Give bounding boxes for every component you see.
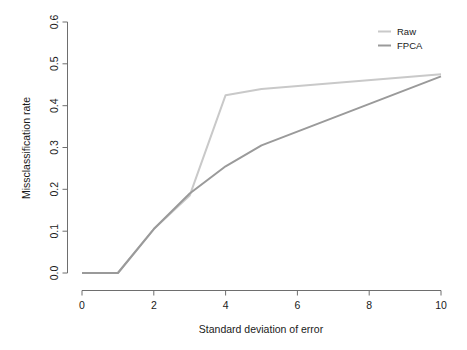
- chart-figure: 0.0 0.1 0.2 0.3 0.4 0.5 0.6 Missclassifi…: [0, 0, 467, 350]
- y-axis-title: Missclassification rate: [20, 97, 32, 199]
- x-tick-label-4: 8: [366, 299, 372, 311]
- y-tick-label-0: 0.0: [48, 266, 60, 281]
- line-chart-canvas: 0.0 0.1 0.2 0.3 0.4 0.5 0.6 Missclassifi…: [0, 0, 467, 350]
- legend-label-raw: Raw: [397, 26, 416, 37]
- y-tick-label-6: 0.6: [48, 15, 60, 30]
- chart-background: [0, 0, 467, 350]
- y-tick-label-5: 0.5: [48, 56, 60, 71]
- x-axis-title: Standard deviation of error: [199, 323, 324, 335]
- x-tick-label-0: 0: [79, 299, 85, 311]
- y-tick-label-3: 0.3: [48, 140, 60, 155]
- legend-label-fpca: FPCA: [397, 40, 423, 51]
- y-tick-label-4: 0.4: [48, 98, 60, 113]
- y-tick-label-1: 0.1: [48, 224, 60, 239]
- x-tick-label-3: 6: [294, 299, 300, 311]
- x-tick-label-2: 4: [223, 299, 229, 311]
- x-tick-label-1: 2: [151, 299, 157, 311]
- x-tick-label-5: 10: [435, 299, 447, 311]
- clipped-caption-fragment: [0, 338, 467, 350]
- y-tick-label-2: 0.2: [48, 182, 60, 197]
